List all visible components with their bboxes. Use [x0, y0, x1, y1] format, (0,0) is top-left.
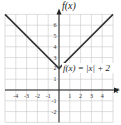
y-tick-label: 3	[54, 55, 57, 61]
x-tick-label: -4	[13, 93, 18, 99]
x-tick-label: 4	[101, 93, 104, 99]
x-tick-label: -1	[46, 93, 51, 99]
y-tick-label: -2	[52, 109, 57, 115]
x-tick-label: 3	[90, 93, 93, 99]
x-tick-label: -3	[24, 93, 29, 99]
y-axis-label: f(x)	[62, 0, 77, 12]
y-tick-label: -1	[52, 98, 57, 104]
y-tick-label: 6	[54, 22, 57, 28]
absolute-value-graph: -4-3-2-11234654321-1-2 f(x) x f(x) = |x|…	[0, 0, 121, 125]
y-tick-label: 5	[54, 33, 57, 39]
x-tick-label: -2	[35, 93, 40, 99]
y-tick-label: 4	[54, 44, 57, 50]
x-tick-label: 2	[79, 93, 82, 99]
y-tick-label: 1	[54, 76, 57, 82]
function-equation-label: f(x) = |x| + 2	[63, 63, 111, 73]
x-axis-label: x	[113, 84, 119, 95]
x-tick-label: 1	[68, 93, 71, 99]
y-axis-arrow-icon	[57, 8, 62, 14]
